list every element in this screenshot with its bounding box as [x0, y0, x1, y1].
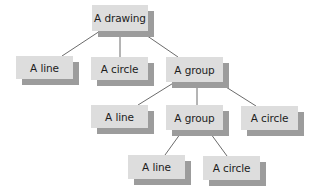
node-label: A line	[105, 111, 134, 123]
node-box: A group	[166, 57, 223, 82]
node-circle2: A circle	[241, 106, 298, 130]
node-line1: A line	[16, 56, 73, 79]
node-box: A circle	[91, 57, 148, 80]
node-group2: A group	[166, 105, 223, 130]
node-label: A line	[142, 161, 171, 173]
node-label: A drawing	[94, 12, 146, 24]
node-box: A line	[16, 56, 73, 79]
node-box: A drawing	[92, 5, 148, 31]
connector-drawing-to-line1	[62, 31, 100, 56]
node-box: A line	[91, 105, 148, 128]
node-label: A group	[174, 112, 214, 124]
node-group1: A group	[166, 57, 223, 82]
node-line2: A line	[91, 105, 148, 128]
node-circle1: A circle	[91, 57, 148, 80]
object-hierarchy-diagram: A drawingA lineA circleA groupA lineA gr…	[0, 0, 319, 195]
node-box: A circle	[203, 156, 260, 180]
node-label: A group	[174, 64, 214, 76]
node-label: A circle	[213, 162, 251, 174]
node-box: A line	[128, 155, 185, 179]
node-box: A circle	[241, 106, 298, 130]
node-box: A group	[166, 105, 223, 130]
node-label: A line	[30, 62, 59, 74]
node-circle3: A circle	[203, 156, 260, 180]
node-line3: A line	[128, 155, 185, 179]
node-drawing: A drawing	[92, 5, 148, 31]
node-label: A circle	[251, 112, 289, 124]
node-label: A circle	[101, 63, 139, 75]
